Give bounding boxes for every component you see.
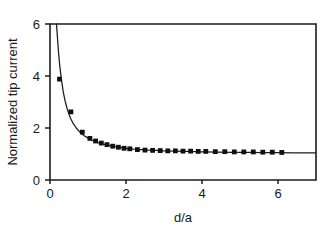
data-point-marker [196, 149, 201, 154]
data-point-marker [135, 147, 140, 152]
x-axis-title: d/a [174, 210, 193, 225]
data-point-marker [105, 142, 110, 147]
data-point-marker [222, 149, 227, 154]
data-point-marker [69, 109, 74, 114]
y-tick-label: 4 [33, 69, 40, 84]
data-point-marker [165, 148, 170, 153]
approach-curve-chart: 0246 0246 d/a Normalized tip current [0, 0, 334, 233]
data-point-marker [251, 150, 256, 155]
data-point-marker [260, 150, 265, 155]
data-point-marker [213, 149, 218, 154]
data-point-marker [99, 141, 104, 146]
data-point-marker [93, 139, 98, 144]
x-tick-label: 4 [198, 186, 205, 201]
data-point-marker [88, 136, 93, 141]
data-point-marker [122, 146, 127, 151]
data-point-marker [203, 149, 208, 154]
x-tick-label: 6 [274, 186, 281, 201]
data-point-marker [232, 150, 237, 155]
data-point-marker [181, 149, 186, 154]
data-point-marker [57, 77, 62, 82]
data-point-marker [173, 148, 178, 153]
data-point-marker [158, 148, 163, 153]
data-point-marker [116, 145, 121, 150]
y-tick-label: 6 [33, 17, 40, 32]
data-point-marker [241, 150, 246, 155]
y-axis-title: Normalized tip current [5, 38, 20, 166]
x-tick-label: 2 [122, 186, 129, 201]
data-point-marker [279, 150, 284, 155]
y-tick-label: 0 [33, 173, 40, 188]
data-point-marker [150, 148, 155, 153]
chart-figure: 0246 0246 d/a Normalized tip current [0, 0, 334, 233]
data-point-marker [110, 144, 115, 149]
data-point-marker [143, 148, 148, 153]
y-tick-label: 2 [33, 121, 40, 136]
data-point-marker [127, 146, 132, 151]
x-tick-label: 0 [46, 186, 53, 201]
data-point-marker [80, 130, 85, 135]
data-point-marker [270, 150, 275, 155]
data-point-marker [188, 149, 193, 154]
